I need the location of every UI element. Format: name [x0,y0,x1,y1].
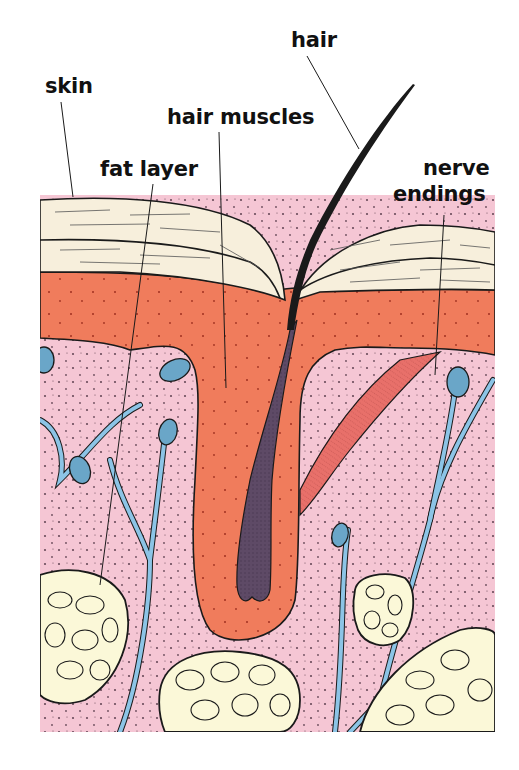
label-hair: hair [291,28,337,52]
label-hair-muscles: hair muscles [167,105,314,129]
label-skin: skin [45,74,93,98]
label-nerve-endings-line1: nerve [423,156,489,180]
label-fat-layer: fat layer [100,157,198,181]
label-nerve-endings-line2: endings [393,182,486,206]
